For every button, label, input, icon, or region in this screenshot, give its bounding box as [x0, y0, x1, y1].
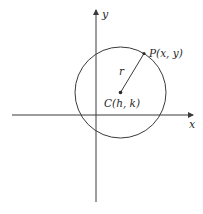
x-axis-label: x — [189, 118, 196, 131]
diagram-canvas: y x P(x, y) r C(h, k) — [0, 0, 203, 214]
radius-label: r — [119, 65, 125, 77]
circle-diagram: y x P(x, y) r C(h, k) — [0, 0, 203, 214]
point-p — [142, 52, 145, 55]
y-axis-label: y — [101, 8, 109, 21]
point-p-label: P(x, y) — [148, 47, 183, 59]
center-label: C(h, k) — [104, 97, 140, 109]
center-point — [119, 91, 123, 95]
